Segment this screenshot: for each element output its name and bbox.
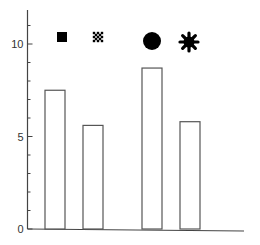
bar-filled-circle [142,68,162,229]
asterisk-icon [180,33,198,51]
category-markers [57,32,198,51]
bars [45,68,200,229]
y-tick-label: 10 [11,38,23,50]
filled-square-icon [57,32,67,42]
y-tick-label: 5 [17,131,23,143]
bar-hatched-cross [83,125,103,229]
bar-filled-square [45,90,65,229]
bar-asterisk [180,122,200,229]
bar-chart: 0510 [0,0,260,245]
y-tick-label: 0 [17,223,23,235]
filled-circle-icon [143,32,161,50]
hatched-cross-icon [93,32,103,42]
